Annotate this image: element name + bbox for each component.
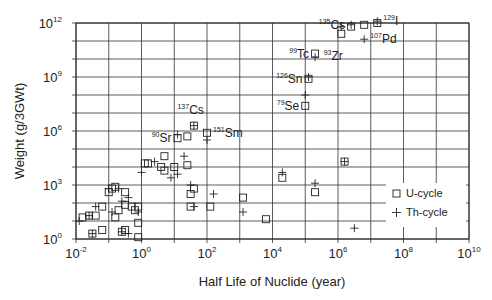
u-cycle-point — [122, 201, 129, 208]
u-cycle-point — [184, 162, 191, 169]
u-cycle-point — [184, 133, 191, 140]
scatter-chart: 10-21001021041061081010 1001031061091012… — [0, 0, 492, 300]
x-tick-label: 102 — [198, 245, 217, 261]
nuclide-annotations: 90Sr137Cs151Sm79Se126Sn99Tc93Zr135Cs107P… — [152, 14, 399, 145]
th-cycle-point — [118, 197, 126, 205]
u-cycle-point — [161, 153, 168, 160]
th-cycle-point — [190, 203, 198, 211]
u-cycle-point — [79, 214, 86, 221]
x-tick-label: 100 — [132, 245, 151, 261]
th-cycle-point — [167, 174, 175, 182]
nuclide-label-sn-126: 126Sn — [276, 72, 302, 86]
u-cycle-point — [122, 189, 129, 196]
th-cycle-point — [180, 152, 188, 160]
u-cycle-point — [99, 227, 106, 234]
th-cycle-point — [210, 190, 218, 198]
u-cycle-point — [92, 212, 99, 219]
th-cycle-point — [311, 179, 319, 187]
nuclide-label-i-129: 129I — [383, 14, 398, 28]
th-cycle-point — [347, 21, 355, 29]
th-cycle-point — [341, 158, 349, 166]
x-tick-label: 1010 — [457, 245, 481, 261]
th-cycle-point — [118, 228, 126, 236]
th-cycle-point — [360, 35, 368, 43]
nuclide-label-tc-99: 99Tc — [289, 47, 309, 61]
th-cycle-point — [278, 168, 286, 176]
legend-th-cycle-label: Th-cycle — [406, 206, 448, 218]
th-cycle-point — [373, 17, 381, 25]
u-cycle-point — [361, 21, 368, 28]
u-cycle-point — [99, 203, 106, 210]
th-cycle-point — [350, 224, 358, 232]
nuclide-label-sm-151: 151Sm — [213, 126, 243, 140]
u-cycle-point — [240, 194, 247, 201]
nuclide-label-zr-93: 93Zr — [324, 49, 343, 63]
y-tick-label: 109 — [43, 69, 62, 85]
u-cycle-point — [262, 216, 269, 223]
th-cycle-point — [174, 170, 182, 178]
nuclide-label-se-79: 79Se — [277, 99, 300, 113]
nuclide-label-pd-107: 107Pd — [370, 32, 396, 46]
u-cycle-point — [135, 219, 142, 226]
x-axis-title: Half Life of Nuclide (year) — [199, 274, 346, 289]
x-tick-label: 104 — [263, 245, 282, 261]
th-cycle-point — [305, 73, 313, 81]
u-cycle-point — [312, 189, 319, 196]
nuclide-label-cs-137: 137Cs — [177, 103, 203, 117]
y-tick-label: 1012 — [39, 15, 63, 31]
th-cycle-point — [174, 131, 182, 139]
th-cycle-point — [88, 230, 96, 238]
x-tick-label: 106 — [329, 245, 348, 261]
u-cycle-point — [207, 203, 214, 210]
nuclide-label-cs-135: 135Cs — [319, 18, 345, 32]
th-cycle-point — [124, 194, 132, 202]
u-cycle-point — [135, 234, 142, 241]
th-cycle-point — [311, 53, 319, 61]
u-cycle-point — [115, 207, 122, 214]
th-cycle-point — [239, 208, 247, 216]
th-cycle-point — [187, 181, 195, 189]
y-axis-title: Weight (g/3GWt) — [12, 83, 27, 180]
y-axis-ticks: 1001031061091012 — [39, 15, 63, 247]
th-cycle-point — [301, 91, 309, 99]
nuclide-label-sr-90: 90Sr — [152, 131, 172, 145]
y-tick-label: 100 — [43, 231, 62, 247]
th-cycle-point — [203, 136, 211, 144]
th-cycle-point — [190, 122, 198, 130]
legend: U-cycle Th-cycle — [386, 183, 466, 227]
legend-u-cycle-label: U-cycle — [406, 187, 443, 199]
x-tick-label: 10-2 — [65, 245, 87, 261]
y-tick-label: 106 — [43, 123, 62, 139]
x-axis-ticks: 10-21001021041061081010 — [65, 245, 481, 261]
y-tick-label: 103 — [43, 177, 62, 193]
u-cycle-point — [112, 214, 119, 221]
th-cycle-point — [138, 168, 146, 176]
x-tick-label: 108 — [394, 245, 413, 261]
